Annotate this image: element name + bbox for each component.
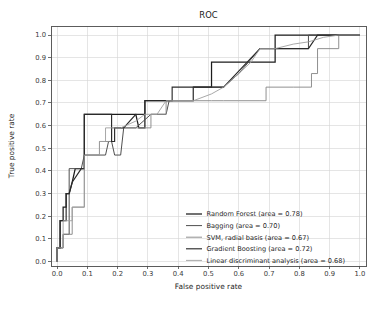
x-tick-label: 0.7 [264, 270, 275, 278]
x-tick-label: 0.1 [82, 270, 93, 278]
x-tick-label: 1.0 [355, 270, 366, 278]
x-tick-label: 0.4 [173, 270, 184, 278]
x-tick-label: 0.8 [294, 270, 305, 278]
x-tick-label: 0.6 [233, 270, 244, 278]
x-tick-label: 0.2 [112, 270, 123, 278]
x-tick-label: 0.5 [203, 270, 214, 278]
y-axis-label: True positive rate [7, 113, 16, 179]
y-tick-label: 0.2 [35, 213, 46, 221]
x-tick-label: 0.9 [324, 270, 335, 278]
legend-label: Linear discriminant analysis (area = 0.6… [207, 257, 346, 265]
y-tick-label: 0.5 [35, 145, 46, 153]
x-tick-label: 0.0 [52, 270, 63, 278]
x-axis-label: False positive rate [175, 282, 243, 291]
y-tick-label: 0.8 [35, 77, 46, 85]
roc-chart-canvas: 0.00.10.20.30.40.50.60.70.80.91.00.00.10… [0, 0, 388, 310]
y-tick-label: 0.7 [35, 99, 46, 107]
legend-label: SVM, radial basis (area = 0.67) [207, 234, 310, 242]
legend-label: Gradient Boosting (area = 0.72) [207, 245, 313, 253]
y-tick-label: 0.3 [35, 190, 46, 198]
y-tick-label: 0.1 [35, 235, 46, 243]
legend-label: Bagging (area = 0.70) [207, 222, 280, 230]
page-title: ROC [199, 10, 217, 20]
y-tick-label: 0.6 [35, 122, 46, 130]
roc-chart-figure: 0.00.10.20.30.40.50.60.70.80.91.00.00.10… [0, 0, 388, 310]
y-tick-label: 0.4 [35, 167, 46, 175]
y-tick-label: 0.9 [35, 54, 46, 62]
legend-label: Random Forest (area = 0.78) [207, 210, 303, 218]
x-tick-label: 0.3 [143, 270, 154, 278]
y-tick-label: 1.0 [35, 31, 46, 39]
y-tick-label: 0.0 [35, 258, 46, 266]
legend-entry: Linear discriminant analysis (area = 0.6… [186, 257, 345, 265]
